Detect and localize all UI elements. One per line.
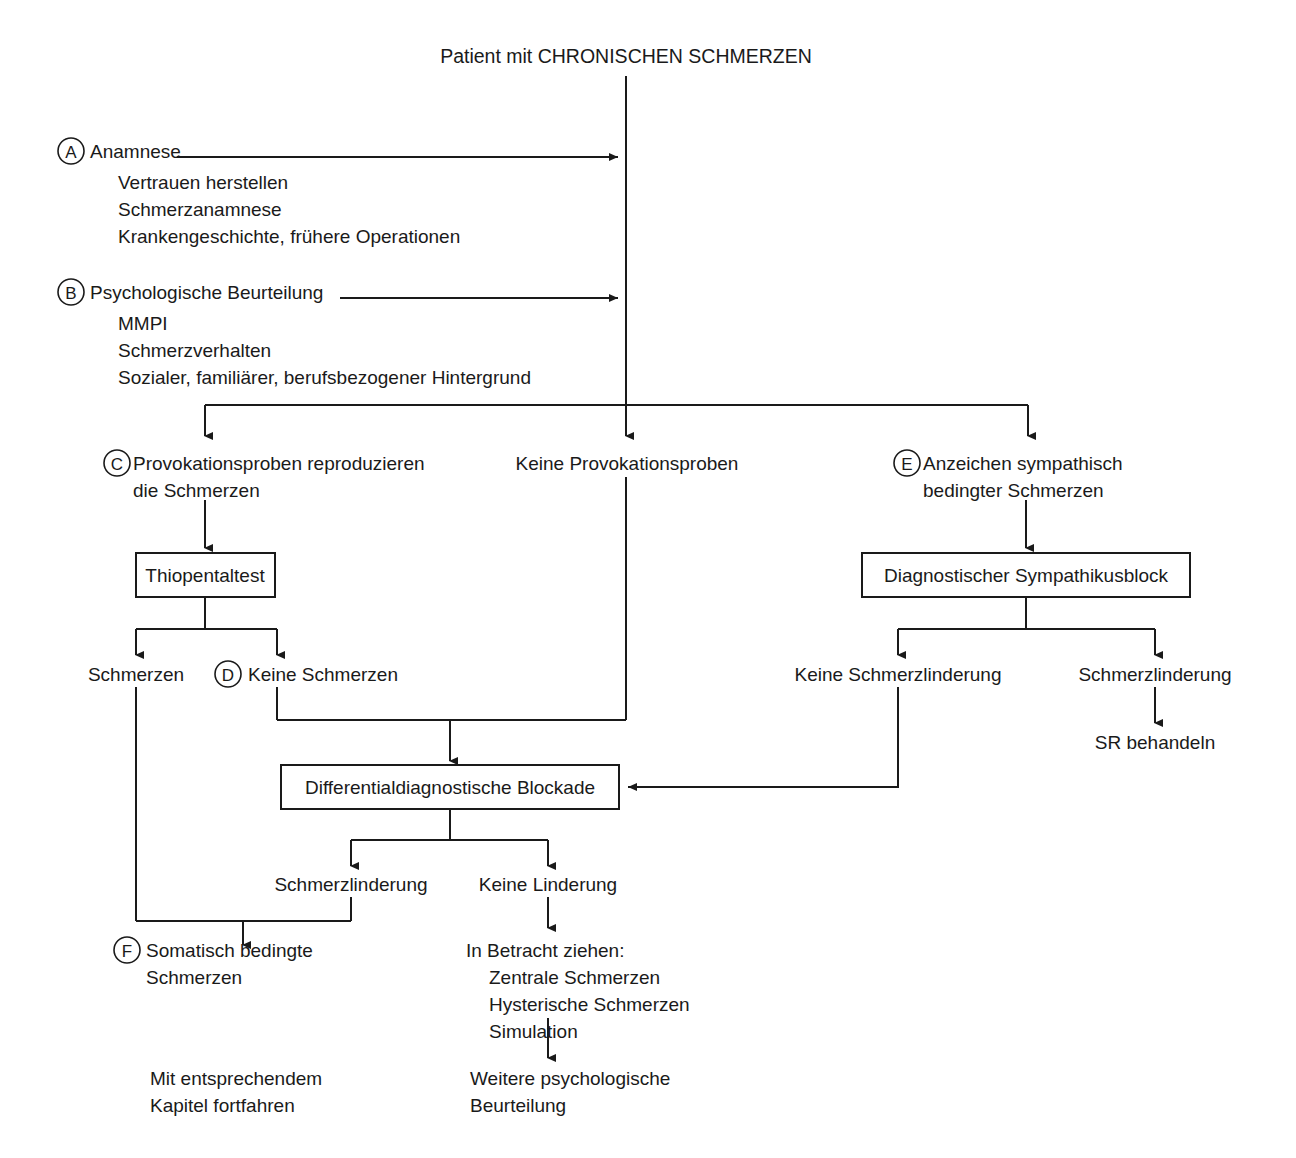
box-thiopentaltest: Thiopentaltest [136,553,275,597]
step-a-item-0: Vertrauen herstellen [118,172,288,193]
label-pain-relief-bottom: Schmerzlinderung [274,874,427,895]
consider-item-0: Zentrale Schmerzen [489,967,660,988]
step-c: C Provokationsproben reproduzieren die S… [104,450,425,501]
step-d: D Keine Schmerzen [215,661,398,687]
step-a: A Anamnese Vertrauen herstellen Schmerza… [58,138,460,247]
outcome-further-psych: Weitere psychologische Beurteilung [470,1068,670,1116]
step-f-line2: Schmerzen [146,967,242,988]
step-a-item-1: Schmerzanamnese [118,199,282,220]
marker-letter-d: D [222,666,234,685]
further-psych-line2: Beurteilung [470,1095,566,1116]
continue-chapter-line2: Kapitel fortfahren [150,1095,295,1116]
marker-letter-c: C [111,455,123,474]
consider-heading: In Betracht ziehen: [466,940,624,961]
continue-chapter-line1: Mit entsprechendem [150,1068,322,1089]
step-d-label: Keine Schmerzen [248,664,398,685]
step-b-item-1: Schmerzverhalten [118,340,271,361]
further-psych-line1: Weitere psychologische [470,1068,670,1089]
page-title: Patient mit CHRONISCHEN SCHMERZEN [440,45,812,67]
label-no-provocation: Keine Provokationsproben [516,453,739,474]
consider-list: In Betracht ziehen: Zentrale Schmerzen H… [466,940,690,1042]
marker-letter-f: F [122,942,132,961]
label-treat-sr: SR behandeln [1095,732,1215,753]
step-c-line2: die Schmerzen [133,480,260,501]
flowchart-canvas: Patient mit CHRONISCHEN SCHMERZEN [0,0,1296,1158]
box-differential-block-label: Differentialdiagnostische Blockade [305,777,595,798]
step-e: E Anzeichen sympathisch bedingter Schmer… [894,450,1123,501]
box-differential-block: Differentialdiagnostische Blockade [281,765,619,809]
marker-letter-b: B [65,284,76,303]
label-pain: Schmerzen [88,664,184,685]
marker-letter-e: E [901,455,912,474]
label-no-relief-bottom: Keine Linderung [479,874,617,895]
step-b: B Psychologische Beurteilung MMPI Schmer… [58,279,531,388]
consider-item-1: Hysterische Schmerzen [489,994,690,1015]
flowchart-svg: Patient mit CHRONISCHEN SCHMERZEN [0,0,1296,1158]
outcome-continue-chapter: Mit entsprechendem Kapitel fortfahren [150,1068,322,1116]
step-a-item-2: Krankengeschichte, frühere Operationen [118,226,460,247]
label-no-pain-relief: Keine Schmerzlinderung [794,664,1001,685]
marker-letter-a: A [65,143,77,162]
step-b-item-2: Sozialer, familiärer, berufsbezogener Hi… [118,367,531,388]
step-e-line2: bedingter Schmerzen [923,480,1104,501]
step-a-heading: Anamnese [90,141,181,162]
box-sympathetic-block-label: Diagnostischer Sympathikusblock [884,565,1169,586]
box-thiopentaltest-label: Thiopentaltest [145,565,265,586]
edge-no-relief-to-differential [628,687,898,787]
step-b-heading: Psychologische Beurteilung [90,282,323,303]
step-f-line1: Somatisch bedingte [146,940,313,961]
consider-item-2: Simulation [489,1021,578,1042]
step-f: F Somatisch bedingte Schmerzen [114,937,313,988]
label-pain-relief-right: Schmerzlinderung [1078,664,1231,685]
step-b-item-0: MMPI [118,313,168,334]
step-c-line1: Provokationsproben reproduzieren [133,453,425,474]
box-sympathetic-block: Diagnostischer Sympathikusblock [862,553,1190,597]
step-e-line1: Anzeichen sympathisch [923,453,1123,474]
